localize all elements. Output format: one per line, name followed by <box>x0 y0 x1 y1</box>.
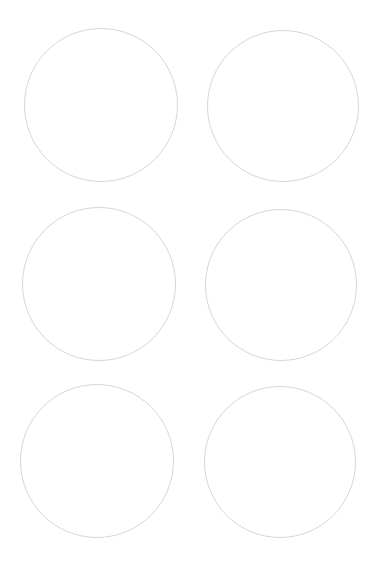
circle-label-5 <box>20 384 174 538</box>
circle-label-3 <box>22 207 176 361</box>
circle-label-4 <box>205 209 357 361</box>
circle-label-2 <box>207 30 359 182</box>
label-sheet <box>0 0 377 566</box>
circle-label-1 <box>24 28 178 182</box>
circle-label-6 <box>204 386 356 538</box>
